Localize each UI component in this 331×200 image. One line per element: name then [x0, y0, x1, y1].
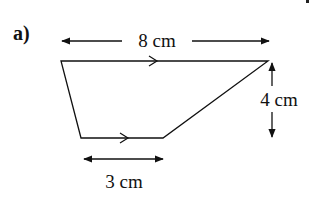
- trapezium-shape: [61, 61, 268, 138]
- trapezium-diagram: a) 8 cm 4 cm 3 cm: [0, 0, 331, 200]
- height-label: 4 cm: [260, 89, 298, 110]
- bottom-length-label: 3 cm: [105, 171, 143, 192]
- part-label: a): [13, 22, 30, 45]
- cropped-glyph-fragment: [306, 0, 309, 3]
- top-length-label: 8 cm: [138, 30, 176, 51]
- bottom-dimension: 3 cm: [84, 159, 163, 192]
- top-dimension: 8 cm: [62, 30, 269, 51]
- height-dimension: 4 cm: [260, 63, 298, 137]
